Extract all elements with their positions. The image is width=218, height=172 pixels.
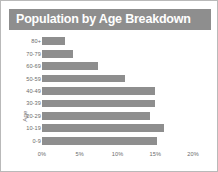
chart-figure: Population by Age Breakdown Age 80+ 70-7… xyxy=(0,0,218,172)
y-axis-tick-labels: 80+ 70-79 60-69 50-59 40-49 30-39 20-29 … xyxy=(19,35,41,147)
plot-area: Age 80+ 70-79 60-69 50-59 40-49 30-39 20… xyxy=(1,35,218,172)
bar-row xyxy=(42,85,193,97)
bar xyxy=(42,50,73,58)
bar-row xyxy=(42,47,193,59)
x-axis-tick-label: 15% xyxy=(150,151,162,157)
bar-row xyxy=(42,60,193,72)
y-axis-tick-label: 70-79 xyxy=(19,47,41,59)
bar xyxy=(42,62,98,70)
bar xyxy=(42,87,155,95)
bar-row xyxy=(42,97,193,109)
x-axis-tick-label: 5% xyxy=(76,151,84,157)
bar xyxy=(42,37,65,45)
y-axis-tick-label: 60-69 xyxy=(19,60,41,72)
bar xyxy=(42,100,155,108)
page-title: Population by Age Breakdown xyxy=(9,13,191,26)
bar xyxy=(42,75,125,83)
y-axis-tick-label: 40-49 xyxy=(19,85,41,97)
bar-row xyxy=(42,35,193,47)
bar xyxy=(42,112,150,120)
y-axis-tick-label: 0-9 xyxy=(19,135,41,147)
y-axis-tick-label: 30-39 xyxy=(19,97,41,109)
x-axis-tick-labels: 0% 5% 10% 15% 20% xyxy=(42,147,193,161)
x-axis-tick-label: 0% xyxy=(38,151,46,157)
x-axis-tick-label: 10% xyxy=(112,151,124,157)
x-axis-tick-label: 20% xyxy=(187,151,199,157)
bar xyxy=(42,137,157,145)
bar-row xyxy=(42,122,193,134)
bar-row xyxy=(42,135,193,147)
y-axis-tick-label: 50-59 xyxy=(19,72,41,84)
y-axis-tick-label: 20-29 xyxy=(19,110,41,122)
bars-container xyxy=(42,35,193,147)
y-axis-tick-label: 10-19 xyxy=(19,122,41,134)
bar xyxy=(42,124,164,132)
y-axis-tick-label: 80+ xyxy=(19,35,41,47)
chart-title-banner: Population by Age Breakdown xyxy=(9,9,211,30)
bar-row xyxy=(42,72,193,84)
bar-row xyxy=(42,110,193,122)
